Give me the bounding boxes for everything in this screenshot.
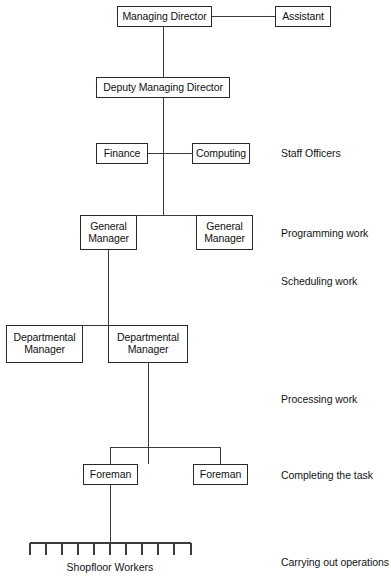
node-departmental-manager-right-label: Departmental Manager [109,332,187,356]
node-general-manager-left: General Manager [80,215,137,250]
edge-foreman-left-drop [110,447,111,464]
annotation-processing-work: Processing work [281,393,357,405]
annotation-programming-work: Programming work [281,227,368,239]
edge-foreman-split-bar [110,447,221,448]
annotation-completing-the-task: Completing the task [281,469,373,481]
edge-finance-to-computing [148,153,192,154]
edge-md-to-assistant [212,16,275,17]
node-general-manager-right-label: General Manager [197,221,252,245]
caption-shopfloor-workers: Shopfloor Workers [30,561,190,573]
edge-deputy-spine [163,98,164,215]
annotation-scheduling-work: Scheduling work [281,275,357,287]
shopfloor-workers-comb [24,538,199,558]
node-assistant-label: Assistant [279,11,327,23]
node-departmental-manager-right: Departmental Manager [108,325,188,363]
node-departmental-manager-left-label: Departmental Manager [7,332,82,356]
caption-shopfloor-workers-label: Shopfloor Workers [67,561,154,573]
org-chart: Managing Director Assistant Deputy Manag… [0,0,391,581]
edge-md-to-deputy [163,27,164,77]
node-finance: Finance [96,143,148,164]
node-foreman-left-label: Foreman [87,469,134,481]
edge-gm-to-dm-spine [108,250,109,325]
node-finance-label: Finance [101,148,144,160]
node-computing: Computing [192,143,250,164]
annotation-carrying-out-operations: Carrying out operations [281,556,389,568]
node-foreman-right-label: Foreman [197,469,244,481]
node-managing-director-label: Managing Director [119,11,209,23]
node-general-manager-right: General Manager [196,215,253,250]
node-computing-label: Computing [193,148,249,160]
node-managing-director: Managing Director [117,6,212,27]
node-deputy-managing-director-label: Deputy Managing Director [100,82,226,94]
edge-dm-to-foreman-spine [148,363,149,464]
node-foreman-right: Foreman [193,464,248,485]
node-foreman-left: Foreman [83,464,138,485]
node-general-manager-left-label: General Manager [81,221,136,245]
annotation-staff-officers: Staff Officers [281,147,341,159]
node-departmental-manager-left: Departmental Manager [6,325,83,363]
node-assistant: Assistant [275,6,331,27]
edge-foreman-to-shopfloor-spine [110,485,111,543]
edge-foreman-right-drop [220,447,221,464]
node-deputy-managing-director: Deputy Managing Director [96,77,230,98]
